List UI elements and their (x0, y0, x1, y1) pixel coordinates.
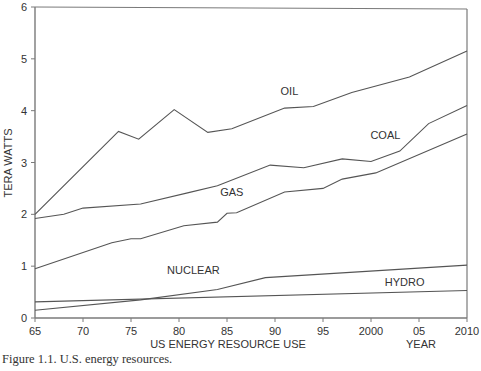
series-label-hydro: HYDRO (385, 276, 425, 288)
x-tick-label: 65 (29, 325, 41, 337)
y-tick-label: 4 (21, 105, 27, 117)
x-tick-label: 80 (173, 325, 185, 337)
top-frame-line (35, 7, 467, 9)
series-line-oil (35, 51, 467, 214)
y-tick-label: 1 (21, 260, 27, 272)
y-tick-label: 2 (21, 208, 27, 220)
x-tick-label: 95 (317, 325, 329, 337)
x-tick-label: 2010 (455, 325, 479, 337)
series-lines (35, 51, 467, 310)
x-tick-label: 05 (413, 325, 425, 337)
y-tick-label: 3 (21, 157, 27, 169)
y-tick-label: 0 (21, 312, 27, 324)
x-tick-label: 90 (269, 325, 281, 337)
series-line-gas (35, 134, 467, 269)
x-tick-label: 70 (77, 325, 89, 337)
y-axis-title: TERA WATTS (2, 128, 14, 197)
energy-chart-figure: 0123456657075808590952000052010 OILCOALG… (0, 0, 481, 371)
series-label-oil: OIL (281, 85, 299, 97)
y-tick-label: 6 (21, 1, 27, 13)
y-tick-label: 5 (21, 53, 27, 65)
series-label-gas: GAS (220, 186, 243, 198)
x-tick-label: 2000 (359, 325, 383, 337)
x-tick-label: 85 (221, 325, 233, 337)
x-tick-label: 75 (125, 325, 137, 337)
series-label-coal: COAL (370, 129, 400, 141)
x-axis-title: US ENERGY RESOURCE USE (150, 338, 306, 350)
x-axis-year-label: YEAR (406, 338, 436, 350)
figure-caption: Figure 1.1. U.S. energy resources. (2, 352, 172, 367)
series-labels: OILCOALGASNUCLEARHYDRO (167, 85, 425, 288)
line-chart: 0123456657075808590952000052010 OILCOALG… (0, 0, 481, 350)
series-label-nuclear: NUCLEAR (167, 264, 220, 276)
series-line-hydro (35, 291, 467, 302)
